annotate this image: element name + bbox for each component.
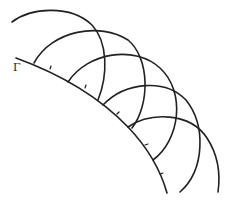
- wavelet-arc-3: [68, 54, 177, 160]
- tick-mark: [50, 66, 51, 69]
- tick-mark: [145, 144, 148, 145]
- wavefront-diagram: Γ: [0, 0, 230, 207]
- wavelet-arc-4: [103, 85, 200, 192]
- wavelet-arc-1: [12, 10, 105, 100]
- tick-mark: [117, 112, 119, 114]
- wavelet-arc-2: [34, 31, 145, 128]
- tick-mark: [85, 85, 86, 88]
- boundary-label-gamma: Γ: [13, 62, 21, 73]
- diagram-canvas: [0, 0, 230, 207]
